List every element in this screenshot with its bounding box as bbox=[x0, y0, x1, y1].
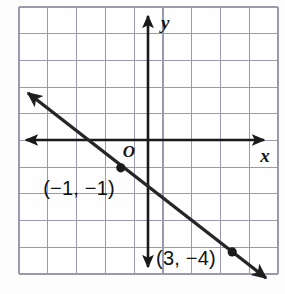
y-axis-label: y bbox=[159, 12, 170, 33]
x-axis-label: x bbox=[259, 145, 270, 166]
origin-label: O bbox=[123, 142, 135, 161]
coordinate-plane-figure: y x O (−1, −1) (3, −4) bbox=[0, 0, 285, 294]
data-point-a bbox=[116, 163, 125, 172]
point-label-b: (3, −4) bbox=[156, 247, 216, 269]
data-point-b bbox=[228, 247, 237, 256]
point-label-a: (−1, −1) bbox=[43, 177, 115, 199]
graph-canvas: y x O (−1, −1) (3, −4) bbox=[0, 0, 285, 294]
